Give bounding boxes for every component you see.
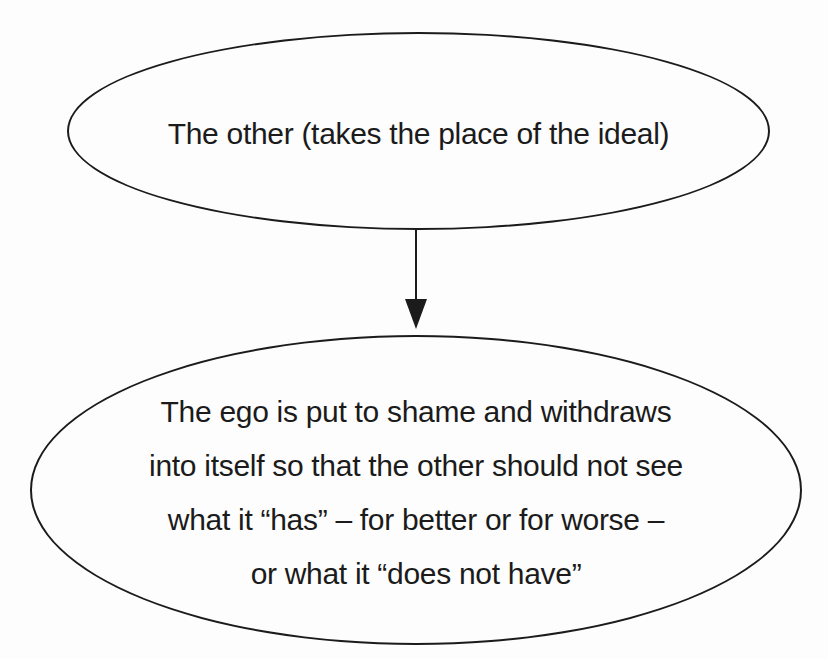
bottom-node-label: The ego is put to shame and withdraws in… bbox=[149, 379, 683, 601]
down-arrow-head-icon bbox=[405, 299, 427, 329]
down-arrow-shaft bbox=[415, 229, 418, 307]
bottom-node-line-2: into itself so that the other should not… bbox=[149, 439, 683, 493]
top-node-ellipse: The other (takes the place of the ideal) bbox=[67, 32, 770, 230]
bottom-node-ellipse: The ego is put to shame and withdraws in… bbox=[30, 335, 802, 645]
bottom-node-line-3: what it “has” – for better or for worse … bbox=[149, 493, 683, 547]
bottom-node-line-4: or what it “does not have” bbox=[149, 547, 683, 601]
diagram-canvas: The other (takes the place of the ideal)… bbox=[0, 0, 828, 659]
down-arrow bbox=[404, 229, 428, 330]
bottom-node-line-1: The ego is put to shame and withdraws bbox=[149, 385, 683, 439]
top-node-label: The other (takes the place of the ideal) bbox=[168, 101, 670, 161]
